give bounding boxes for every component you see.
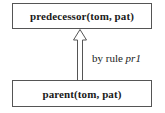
edge-label-prefix: by rule (92, 52, 123, 64)
edge-label: by rule pr1 (92, 52, 141, 64)
premise-node: parent(tom, pat) (12, 80, 152, 107)
conclusion-node: predecessor(tom, pat) (12, 3, 152, 29)
derivation-arrow-icon (72, 28, 88, 81)
conclusion-text: predecessor(tom, pat) (30, 10, 134, 22)
premise-text: parent(tom, pat) (43, 88, 122, 100)
edge-label-rule: pr1 (126, 52, 141, 64)
